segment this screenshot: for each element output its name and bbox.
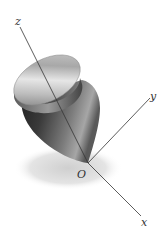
spinning-top-diagram: z y x O xyxy=(0,0,164,237)
z-axis-label: z xyxy=(14,15,21,28)
y-axis-label: y xyxy=(149,90,157,103)
x-axis-label: x xyxy=(141,216,148,229)
origin-label: O xyxy=(77,168,86,181)
